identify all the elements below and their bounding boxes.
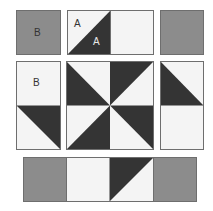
middle-right-unit (161, 62, 204, 150)
center-pinwheel-block (67, 62, 154, 150)
middle-left-unit (17, 62, 61, 150)
label-top-left-square: B (34, 27, 41, 38)
quilt-diagram: B A A B (0, 0, 213, 211)
bottom-strip (24, 158, 197, 202)
label-hst-dark-half: A (93, 36, 100, 47)
label-left-rect-top: B (33, 77, 40, 88)
label-hst-light-half: A (74, 18, 81, 29)
top-right-gray-square (161, 11, 204, 55)
